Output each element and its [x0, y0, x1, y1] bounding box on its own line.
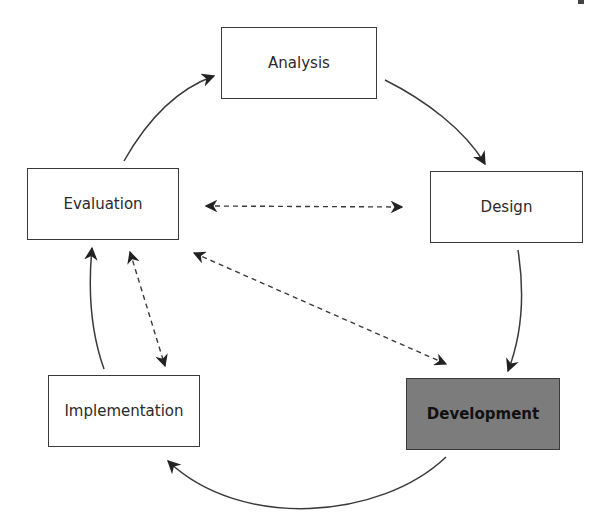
node-analysis: Analysis	[221, 27, 377, 99]
edge-evaluation-to-analysis	[124, 76, 214, 161]
node-implementation: Implementation	[48, 375, 200, 447]
edge-design-to-development	[508, 250, 522, 371]
edge-evaluation-development-dashed	[194, 253, 446, 364]
node-design-label: Design	[481, 198, 533, 216]
node-development-label: Development	[427, 405, 539, 423]
addie-cycle-diagram: Analysis Design Development Implementati…	[0, 0, 599, 531]
edge-implementation-to-evaluation	[90, 248, 104, 369]
node-implementation-label: Implementation	[64, 402, 183, 420]
node-evaluation-label: Evaluation	[63, 195, 142, 213]
edge-evaluation-implementation-dashed	[130, 252, 165, 366]
node-analysis-label: Analysis	[268, 54, 330, 72]
node-development: Development	[406, 378, 560, 450]
edge-development-to-implementation	[168, 457, 446, 509]
node-evaluation: Evaluation	[27, 168, 179, 240]
node-design: Design	[430, 171, 583, 243]
edge-analysis-to-design	[385, 80, 485, 164]
edge-evaluation-design-dashed	[206, 206, 402, 207]
